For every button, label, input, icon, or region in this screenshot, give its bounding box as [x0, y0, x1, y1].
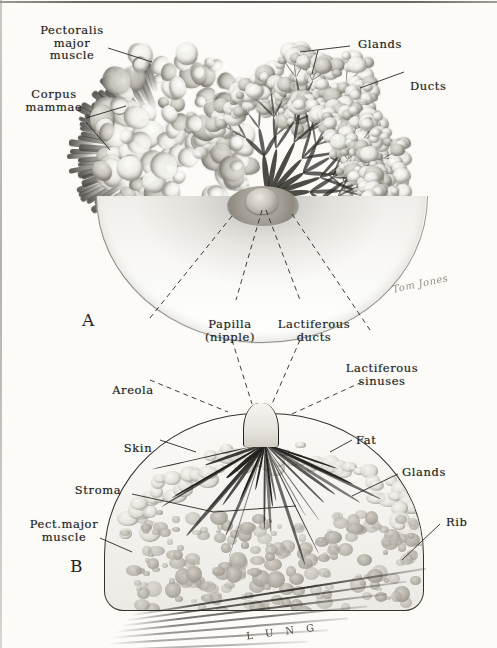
label-areola: Areola	[102, 384, 164, 397]
label-lactiferous-sinuses: Lactiferous sinuses	[330, 362, 434, 387]
label-corpus-mammae: Corpus mammae	[14, 88, 94, 113]
panel-letter-a: A	[82, 310, 95, 330]
label-glands-lower: Glands	[402, 466, 464, 479]
label-fat: Fat	[356, 434, 396, 447]
label-stroma: Stroma	[66, 484, 130, 497]
label-rib: Rib	[446, 516, 486, 529]
panel-letter-b: B	[70, 556, 84, 576]
label-lactiferous-ducts: Lactiferous ducts	[262, 318, 366, 343]
label-pect-major-muscle: Pect.major muscle	[24, 518, 104, 543]
label-ducts: Ducts	[410, 80, 470, 93]
label-papilla: Papilla (nipple)	[186, 318, 274, 343]
papilla-b	[243, 403, 279, 447]
illustration-plate: L U N G Pectoralis major muscle Corpus m…	[0, 0, 497, 648]
label-skin: Skin	[114, 442, 162, 455]
label-glands-top: Glands	[358, 38, 428, 51]
papilla-a	[246, 188, 278, 214]
label-pectoralis-major: Pectoralis major muscle	[26, 24, 118, 62]
